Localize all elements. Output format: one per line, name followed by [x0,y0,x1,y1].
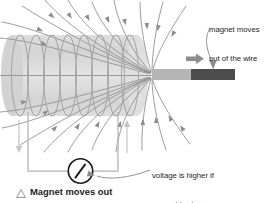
annotation-magnet-moves: magnet moves out of the wire [209,6,260,83]
figure-caption: Magnet moves out [30,186,112,197]
annotation-voltage-line1: voltage is higher if [152,171,216,181]
leader-line-voltage [97,170,150,178]
triangle-outline-icon [16,189,26,198]
induction-diagram: magnet moves out of the wire voltage is … [0,0,275,203]
annotation-voltage: voltage is higher if magnet is stronger [152,152,216,203]
annotation-magnet-moves-line2: out of the wire [209,54,260,64]
annotation-voltage-line2: magnet is stronger [152,200,216,203]
leader-arrowhead-voltage [87,171,96,179]
annotation-magnet-moves-line1: magnet moves [209,25,260,35]
